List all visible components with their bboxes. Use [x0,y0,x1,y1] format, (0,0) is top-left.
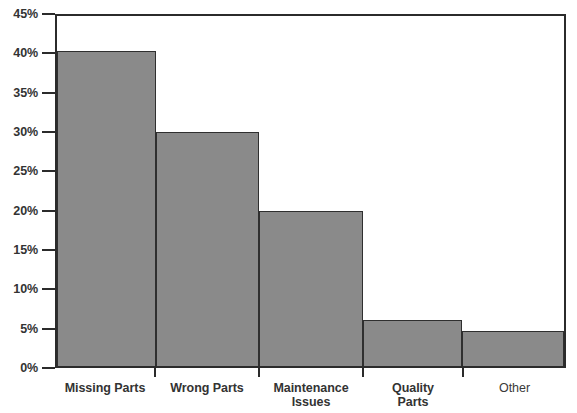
y-axis-tick: 5% [20,321,55,337]
y-axis-tick-label: 25% [13,164,38,178]
y-axis-tick-label: 40% [13,46,38,60]
bar-chart: 0%5%10%15%20%25%30%35%40%45% Missing Par… [0,0,577,413]
y-axis-tick: 35% [13,85,55,101]
y-axis-tick-label: 5% [20,322,38,336]
x-axis-category: Maintenance Issues [259,368,363,413]
plot-area [55,14,566,368]
x-axis-tick-mark [362,368,364,377]
bar [462,331,564,366]
x-axis-tick-mark [154,368,156,377]
y-axis-tick: 40% [13,45,55,61]
y-axis-tick-mark [42,249,55,251]
y-axis-tick-mark [42,131,55,133]
x-axis-tick-mark [258,368,260,377]
y-axis-tick-mark [42,367,55,369]
y-axis-tick: 30% [13,124,55,140]
bar-cell [156,16,259,366]
y-axis-tick-mark [42,328,55,330]
y-axis-tick-label: 30% [13,125,38,139]
y-axis-tick-label: 10% [13,282,38,296]
y-axis-tick: 15% [13,242,55,258]
x-axis: Missing PartsWrong PartsMaintenance Issu… [55,368,566,413]
bar [57,51,156,366]
y-axis-tick-mark [42,92,55,94]
y-axis-tick-label: 15% [13,243,38,257]
y-axis: 0%5%10%15%20%25%30%35%40%45% [0,0,55,413]
bar [259,211,362,366]
y-axis-tick-mark [42,170,55,172]
y-axis-tick-mark [42,288,55,290]
bar-cell [259,16,362,366]
x-axis-category-label: Missing Parts [65,381,146,395]
bars-layer [57,16,564,366]
y-axis-tick: 10% [13,281,55,297]
y-axis-tick-mark [42,210,55,212]
y-axis-tick: 25% [13,163,55,179]
y-axis-tick-label: 45% [13,7,38,21]
y-axis-tick-label: 35% [13,86,38,100]
bar-cell [363,16,462,366]
y-axis-tick-mark [42,13,55,15]
x-axis-category: Other [463,368,566,413]
y-axis-tick: 0% [20,360,55,376]
x-axis-category-label: Wrong Parts [170,381,244,395]
bar-cell [462,16,564,366]
bar [156,132,259,366]
y-axis-tick-label: 0% [20,361,38,375]
y-axis-tick: 45% [13,6,55,22]
y-axis-tick-mark [42,52,55,54]
x-axis-category-label: Maintenance Issues [273,381,348,409]
x-axis-category: Missing Parts [55,368,155,413]
y-axis-tick: 20% [13,203,55,219]
x-axis-category-label: Other [499,381,530,395]
bar [363,320,462,366]
x-axis-category: Quality Parts [363,368,463,413]
bar-cell [57,16,156,366]
x-axis-category-label: Quality Parts [392,381,434,409]
x-axis-tick-mark [462,368,464,377]
x-axis-category: Wrong Parts [155,368,259,413]
y-axis-tick-label: 20% [13,204,38,218]
